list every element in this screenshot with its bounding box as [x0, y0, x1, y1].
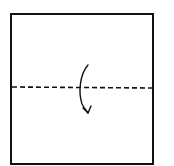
origami-diagram: [0, 0, 174, 166]
paper-square: [11, 14, 153, 164]
